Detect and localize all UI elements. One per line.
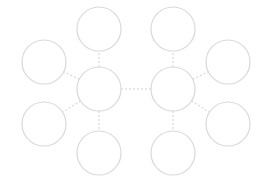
bubble-left-bottom[interactable] xyxy=(77,131,121,175)
bubble-hub-right[interactable] xyxy=(151,67,195,111)
double-bubble-diagram xyxy=(0,0,262,186)
bubble-right-top[interactable] xyxy=(151,7,195,51)
node-group xyxy=(22,7,250,175)
connector-hub-left-left-lower xyxy=(63,101,81,112)
bubble-circle xyxy=(77,7,121,51)
bubble-circle xyxy=(151,131,195,175)
bubble-left-top[interactable] xyxy=(77,7,121,51)
connector-hub-right-right-upper xyxy=(193,72,209,80)
bubble-left-lower[interactable] xyxy=(22,102,66,146)
bubble-circle xyxy=(206,102,250,146)
bubble-right-upper[interactable] xyxy=(206,40,250,84)
connector-hub-right-right-lower xyxy=(192,101,210,112)
bubble-circle xyxy=(206,40,250,84)
bubble-right-lower[interactable] xyxy=(206,102,250,146)
bubble-circle xyxy=(151,7,195,51)
bubble-circle xyxy=(77,131,121,175)
bubble-circle xyxy=(22,102,66,146)
bubble-left-upper[interactable] xyxy=(22,40,66,84)
bubble-circle xyxy=(151,67,195,111)
bubble-circle xyxy=(77,67,121,111)
bubble-circle xyxy=(22,40,66,84)
bubble-hub-left[interactable] xyxy=(77,67,121,111)
connector-hub-left-left-upper xyxy=(64,72,80,80)
bubble-right-bottom[interactable] xyxy=(151,131,195,175)
